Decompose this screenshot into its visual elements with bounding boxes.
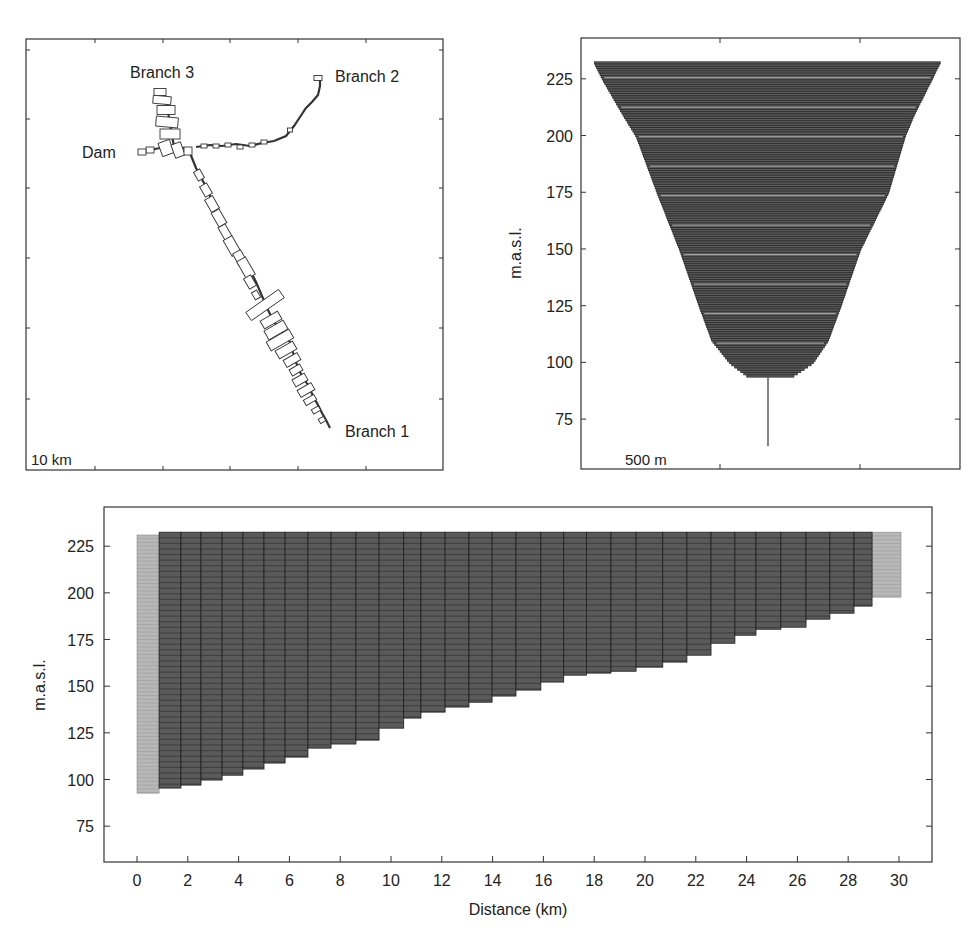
longitudinal-ytick-label: 100 [67,772,94,789]
longitudinal-xtick-label: 18 [585,872,603,889]
longitudinal-xtick-label: 2 [183,872,192,889]
cross-section-ytick-label: 75 [555,411,573,428]
river-segment [830,532,854,613]
map-scale-label: 10 km [31,451,72,468]
branch-2-line [196,78,320,147]
longitudinal-xtick-label: 10 [382,872,400,889]
cross-section-ytick-label: 200 [546,128,573,145]
longitudinal-ytick-label: 225 [67,538,94,555]
river-cross-section-box [303,394,316,405]
longitudinal-panel: 7510012515017520022502468101214161820222… [31,507,932,918]
cross-section-y-axis-title: m.a.s.l. [507,227,524,279]
river-cross-section-box [184,147,192,155]
cross-section-panel: 75100125150175200225 m.a.s.l. 500 m [507,38,960,469]
river-cross-section-box [237,257,256,279]
cross-section-scale-label: 500 m [625,451,667,468]
river-cross-section-box [146,147,154,153]
river-cross-section-box [201,144,207,148]
river-cross-section-box [213,144,219,148]
river-segment [756,532,781,629]
river-cross-section-box [171,142,185,159]
river-segment [201,532,222,780]
river-cross-section-box [314,76,322,81]
river-segment [308,532,331,748]
river-segment [222,532,243,775]
longitudinal-xtick-label: 26 [788,872,806,889]
longitudinal-ytick-label: 175 [67,632,94,649]
label-branch-1: Branch 1 [345,423,409,440]
longitudinal-xtick-label: 28 [839,872,857,889]
longitudinal-xtick-label: 22 [687,872,705,889]
river-cross-section-box [311,406,320,414]
longitudinal-ytick-label: 125 [67,725,94,742]
longitudinal-xtick-label: 30 [890,872,908,889]
longitudinal-xtick-label: 0 [133,872,142,889]
river-cross-section-box [160,129,180,139]
river-segment [445,532,469,707]
longitudinal-y-axis-title: m.a.s.l. [31,659,48,711]
longitudinal-ytick-label: 200 [67,585,94,602]
river-segment [159,532,181,788]
river-cross-section-box [156,116,179,128]
cross-section-plot [594,62,940,446]
longitudinal-xtick-label: 6 [285,872,294,889]
longitudinal-xtick-label: 4 [234,872,243,889]
longitudinal-plot [137,532,901,793]
longitudinal-xtick-label: 20 [636,872,654,889]
longitudinal-ytick-label: 75 [76,818,94,835]
river-cross-section-box [138,149,146,155]
label-branch-3: Branch 3 [130,64,194,81]
river-segment [806,532,830,619]
longitudinal-ytick-label: 150 [67,678,94,695]
longitudinal-xtick-label: 24 [738,872,756,889]
river-segment [181,532,201,785]
label-branch-2: Branch 2 [335,68,399,85]
river-segment [663,532,687,662]
cross-section-ytick-label: 225 [546,71,573,88]
cross-section-layer [747,375,794,377]
cross-section-ytick-label: 150 [546,241,573,258]
longitudinal-xtick-label: 12 [433,872,451,889]
river-cross-section-box [153,95,172,105]
river-network [138,76,330,429]
river-segment [469,532,492,702]
river-segment [564,532,587,675]
river-segment [379,532,404,728]
river-cross-section-box [288,128,293,132]
map-panel: Branch 3 Branch 2 Dam Branch 1 10 km [26,39,443,470]
river-cross-section-box [249,143,255,147]
river-cross-section-box [154,89,166,96]
cross-section-ytick-label: 100 [546,354,573,371]
cross-section-ytick-label: 125 [546,298,573,315]
river-segment [781,532,806,627]
river-cross-section-box [225,143,231,147]
label-dam: Dam [82,144,116,161]
river-segment [356,532,379,740]
river-segment [611,532,636,671]
longitudinal-x-axis-title: Distance (km) [469,901,568,918]
river-segment [587,532,611,673]
river-segment [735,532,756,635]
river-segment [331,532,356,744]
figure: Branch 3 Branch 2 Dam Branch 1 10 km 751… [0,0,971,936]
river-segment [492,532,516,696]
longitudinal-xtick-label: 14 [484,872,502,889]
upstream-segment [872,532,901,597]
river-cross-section-box [237,145,243,149]
longitudinal-xtick-label: 8 [336,872,345,889]
longitudinal-xtick-label: 16 [535,872,553,889]
river-segment [421,532,445,712]
river-cross-section-box [157,106,175,115]
dam-segment [137,535,159,793]
river-cross-section-box [261,140,267,144]
cross-section-ytick-label: 175 [546,184,573,201]
